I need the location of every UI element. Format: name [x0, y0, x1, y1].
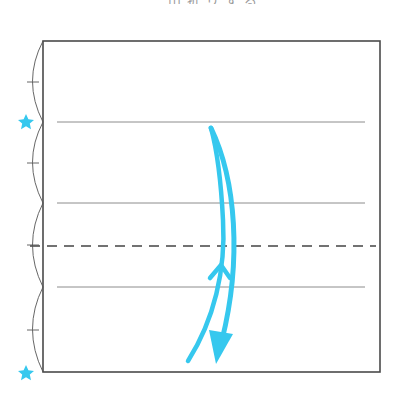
division-arc-4 — [33, 287, 44, 372]
division-arc-1 — [33, 41, 44, 122]
division-arcs — [33, 41, 44, 372]
star-icon — [18, 365, 34, 380]
division-arc-2 — [33, 122, 44, 203]
fold-diagram — [0, 0, 406, 400]
division-ticks — [27, 82, 39, 330]
paper-square — [43, 41, 380, 372]
star-icon — [18, 114, 34, 129]
